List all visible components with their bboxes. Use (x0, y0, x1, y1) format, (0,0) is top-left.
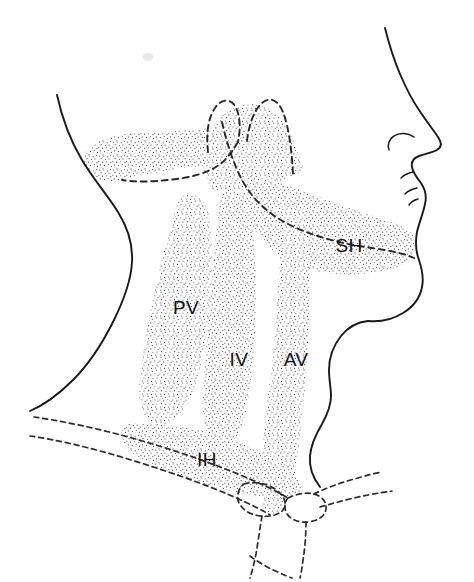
label-av: AV (284, 349, 309, 370)
nostril-outline (388, 133, 414, 150)
stippled-fascial-spaces (84, 104, 416, 517)
anatomical-figure: SH PV IV AV IH (0, 0, 474, 582)
first-rib-left-outline (250, 516, 262, 578)
label-iv: IV (230, 349, 249, 370)
mentolabial-sulcus (409, 199, 418, 205)
label-ih: IH (197, 449, 217, 470)
anterior-neck-contour (310, 321, 368, 487)
sternum-body-outline (300, 522, 306, 578)
label-sh: SH (335, 235, 362, 256)
neck-anatomy-illustration: SH PV IV AV IH (0, 0, 474, 582)
scan-smudge-artifact (143, 53, 154, 61)
costal-margin-outline (250, 556, 292, 578)
label-pv: PV (173, 297, 199, 318)
upper-lip-notch (401, 172, 413, 178)
clavicle-right-lower-outline (320, 491, 392, 507)
lower-lip-notch (405, 188, 417, 194)
suprahyoid-space-region (243, 176, 417, 274)
clavicle-right-upper-outline (314, 472, 382, 494)
